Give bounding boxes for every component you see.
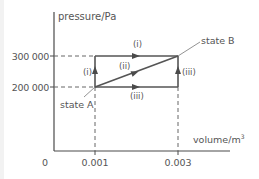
path-label-i-vertical: (i) <box>83 67 92 77</box>
arrow-iii-right-icon <box>132 84 140 90</box>
arrow-ii-diagonal-icon <box>131 71 139 77</box>
path-label-i-horizontal: (i) <box>133 39 142 49</box>
state-a-leader <box>84 87 95 97</box>
x-tick-label-0003: 0.003 <box>164 157 191 168</box>
y-axis-label: pressure/Pa <box>58 11 116 22</box>
x-tick-label-0001: 0.001 <box>81 157 108 168</box>
pressure-volume-diagram: pressure/Pa volume/m3 300 000 200 000 0 … <box>0 0 259 179</box>
arrow-iii-up-icon <box>175 66 181 74</box>
path-label-iii-horizontal: (iii) <box>130 91 144 101</box>
state-a-label: state A <box>60 99 94 110</box>
arrow-i-up-icon <box>92 66 98 74</box>
x-axis-label-superscript: 3 <box>241 133 245 140</box>
state-b-leader <box>178 42 200 56</box>
path-label-ii-diagonal: (ii) <box>119 61 130 71</box>
x-tick-label-0: 0 <box>42 157 48 168</box>
path-label-iii-vertical: (iii) <box>182 67 196 77</box>
x-axis-label-text: volume/m <box>193 134 241 145</box>
arrow-i-right-icon <box>132 53 140 59</box>
y-tick-label-200000: 200 000 <box>12 82 49 93</box>
y-tick-label-300000: 300 000 <box>12 51 49 62</box>
x-axis-label: volume/m3 <box>193 133 245 145</box>
state-b-label: state B <box>201 35 235 46</box>
arrowheads <box>92 53 181 90</box>
